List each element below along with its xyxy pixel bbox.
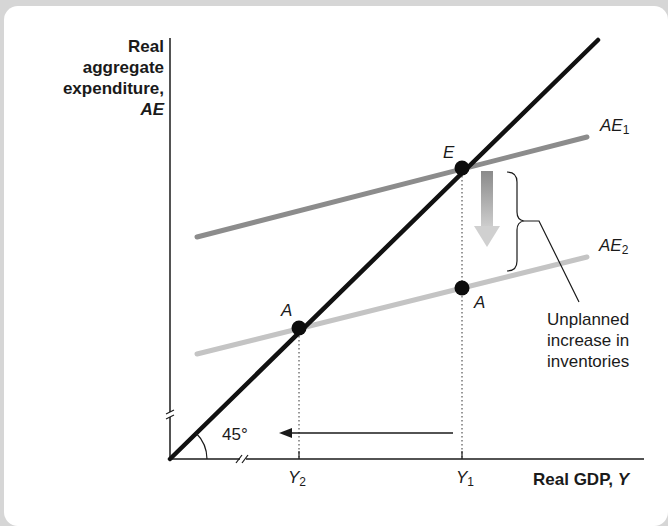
y1-tick-name: Y	[456, 468, 467, 487]
point-e	[455, 161, 470, 176]
forty-five-degree-label: 45°	[222, 424, 248, 445]
point-a-left	[292, 321, 307, 336]
y-axis-label: Real aggregate expenditure, AE	[4, 36, 164, 120]
y2-tick-label: Y2	[288, 468, 306, 489]
note-line-1: Unplanned	[547, 309, 629, 330]
point-a-right-label: A	[474, 293, 485, 313]
angle-arc-icon	[196, 433, 207, 459]
ae1-line	[197, 137, 587, 237]
y2-tick-name: Y	[288, 468, 299, 487]
note-line-2: increase in	[547, 330, 629, 351]
down-arrow-icon	[474, 171, 500, 247]
ae1-label: AE1	[600, 116, 629, 137]
x-axis-label-symbol: Y	[618, 470, 629, 489]
y-axis-label-symbol: AE	[4, 99, 164, 120]
brace-icon	[507, 172, 524, 271]
y1-tick-label: Y1	[456, 468, 474, 489]
ae2-label: AE2	[599, 236, 628, 257]
arrowhead-left-icon	[279, 428, 292, 438]
y-axis-label-line-1: Real	[4, 36, 164, 57]
unplanned-inventory-note: Unplanned increase in inventories	[547, 309, 629, 372]
point-e-label: E	[443, 143, 454, 163]
x-axis-label-text: Real GDP,	[533, 470, 618, 489]
ae2-line	[197, 257, 587, 354]
y-axis-break-icon	[165, 410, 175, 419]
y-axis-label-line-2: aggregate	[4, 57, 164, 78]
ae2-label-name: AE	[599, 236, 622, 255]
point-a-right	[455, 281, 470, 296]
ae1-label-sub: 1	[623, 123, 630, 137]
point-a-left-label: A	[281, 301, 292, 321]
x-axis-label: Real GDP, Y	[533, 470, 629, 490]
forty-five-degree-line	[170, 40, 598, 459]
y2-tick-sub: 2	[299, 475, 306, 489]
ae1-label-name: AE	[600, 116, 623, 135]
note-line-3: inventories	[547, 351, 629, 372]
y-axis-label-line-3: expenditure,	[4, 78, 164, 99]
ae2-label-sub: 2	[622, 243, 629, 257]
y1-tick-sub: 1	[467, 475, 474, 489]
